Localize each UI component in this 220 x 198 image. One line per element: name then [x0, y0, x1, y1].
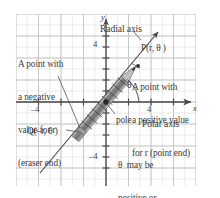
- theta-symbol-label: θ: [127, 79, 132, 90]
- pole-label: pole: [116, 115, 132, 126]
- negative-r-note-line2: a negative: [18, 92, 63, 103]
- theta-sign-note: θ may be positive or negative: [118, 138, 156, 198]
- point-p-label: P(r, θ ): [141, 43, 166, 54]
- radial-axis-label: Radial axis: [100, 23, 142, 34]
- positive-r-note-line1: A point with: [132, 82, 190, 93]
- y-axis-name-label: y: [101, 12, 105, 22]
- pole-point: [103, 99, 108, 104]
- theta-sign-note-line1: θ may be: [118, 160, 156, 171]
- positive-r-note-line2: a positive value: [132, 115, 190, 126]
- x-axis-tick-label-negative: –4: [31, 104, 39, 114]
- negative-r-note-line4: (eraser end): [18, 158, 63, 169]
- y-axis-tick-label-positive: 4: [93, 39, 97, 49]
- negative-r-note: A point with a negative value for r (era…: [18, 37, 63, 191]
- polar-coordinate-figure: Radial axis P(r, θ ) Q(–r, θ ) pole Pola…: [0, 0, 220, 198]
- theta-sign-note-line2: positive or: [118, 193, 156, 198]
- x-axis-tick-label-positive: 4: [147, 104, 151, 114]
- negative-r-note-line1: A point with: [18, 59, 63, 70]
- x-axis-name-label: x: [193, 103, 197, 113]
- y-axis-tick-label-negative: –4: [89, 151, 97, 161]
- negative-r-note-line3: value for r: [18, 125, 63, 136]
